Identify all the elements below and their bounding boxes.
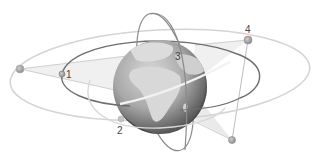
satellite-3-label: 3 — [175, 51, 181, 62]
satellite-2: 2 — [117, 116, 124, 136]
satellite-orbit-diagram: 1 2 3 4 — [0, 0, 317, 157]
satellite-4-label: 4 — [245, 24, 251, 35]
diagram-svg: 1 2 3 4 — [0, 0, 317, 157]
satellite-1-label: 1 — [66, 69, 72, 80]
node-bottom-right — [229, 137, 236, 144]
satellite-2-label: 2 — [117, 125, 123, 136]
satellite-3: 3 — [175, 51, 181, 62]
node-left — [16, 65, 24, 73]
